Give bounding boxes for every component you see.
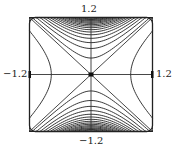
origin-marker [89, 73, 94, 77]
left-edge-marker [29, 71, 32, 78]
y-min-label: −1.2 [79, 136, 103, 146]
right-edge-marker [151, 71, 154, 78]
x-max-label: 1.2 [156, 69, 172, 79]
x-min-label: −1.2 [3, 69, 27, 79]
y-max-label: 1.2 [81, 4, 97, 14]
